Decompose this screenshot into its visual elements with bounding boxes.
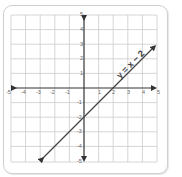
svg-text:-4: -4 [77,143,82,149]
svg-text:3: 3 [80,41,83,47]
svg-text:1: 1 [98,89,101,95]
axes [14,18,154,159]
svg-text:-1: -1 [65,89,70,95]
svg-text:-2: -2 [50,89,55,95]
x-tick-labels: -5 -4 -3 -2 -1 1 2 3 4 5 [6,89,160,95]
svg-text:5: 5 [157,89,160,95]
svg-text:-5: -5 [77,158,82,164]
svg-text:-2: -2 [77,114,82,120]
svg-text:3: 3 [127,89,130,95]
svg-text:4: 4 [142,89,145,95]
svg-text:-3: -3 [77,128,82,134]
svg-text:2: 2 [112,89,115,95]
svg-text:2: 2 [80,55,83,61]
svg-text:-1: -1 [77,99,82,105]
svg-text:4: 4 [80,26,83,32]
svg-text:-4: -4 [21,89,26,95]
svg-text:-3: -3 [36,89,41,95]
svg-text:1: 1 [80,70,83,76]
svg-text:-5: -5 [6,89,11,95]
equation-label: y = x − 2 [114,48,146,80]
svg-text:5: 5 [80,11,83,17]
coordinate-plane: -5 -4 -3 -2 -1 1 2 3 4 5 5 4 3 2 1 -1 -2… [0,0,182,177]
